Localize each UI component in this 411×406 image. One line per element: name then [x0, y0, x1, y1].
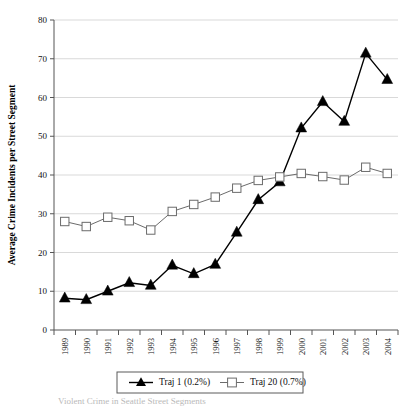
y-axis-tick-label: 60	[38, 93, 48, 103]
data-point-marker	[319, 172, 327, 180]
y-axis-tick-label: 50	[38, 131, 48, 141]
data-point-marker	[253, 194, 264, 204]
data-point-marker	[167, 259, 178, 269]
data-point-marker	[104, 213, 112, 221]
x-axis-tick-label: 1990	[82, 338, 92, 355]
x-axis-tick-label: 2004	[383, 337, 393, 355]
x-axis-tick-label: 1996	[211, 338, 221, 355]
y-axis-tick-label: 30	[38, 209, 48, 219]
data-point-marker	[383, 169, 391, 177]
x-axis-tick-label: 2003	[361, 338, 371, 355]
gridlines-group	[54, 20, 398, 291]
x-axis-tick-label: 1991	[103, 338, 113, 355]
data-point-marker	[168, 207, 176, 215]
y-axis-tick-label: 20	[38, 248, 48, 258]
data-point-marker	[254, 176, 262, 184]
crime-trajectory-line-chart: 01020304050607080 1989199019911992199319…	[0, 0, 411, 406]
x-axis-tick-label: 1995	[189, 338, 199, 355]
x-axis-tick-label: 1999	[275, 338, 285, 355]
chart-legend: Traj 1 (0.2%)Traj 20 (0.7%)	[117, 372, 306, 393]
x-axis-tick-label: 1994	[168, 337, 178, 355]
figure-caption: Violent Crime in Seattle Street Segments	[58, 396, 206, 406]
y-axis-tick-label: 0	[43, 325, 48, 335]
data-point-marker	[340, 176, 348, 184]
x-axis-tick-label: 2000	[297, 338, 307, 355]
y-axis-tick-label: 70	[38, 54, 48, 64]
y-axis-tick-label: 10	[38, 286, 48, 296]
data-point-marker	[124, 277, 135, 287]
data-point-marker	[190, 200, 198, 208]
x-axis-tick-label: 1992	[125, 338, 135, 355]
y-axis-group: 01020304050607080	[38, 15, 54, 335]
data-point-marker	[125, 217, 133, 225]
x-axis-tick-label: 1998	[254, 338, 264, 355]
data-point-marker	[59, 292, 70, 302]
data-point-marker	[61, 217, 69, 225]
legend-label: Traj 20 (0.7%)	[250, 377, 306, 388]
data-point-marker	[360, 47, 371, 57]
x-axis-group: 1989199019911992199319941995199619971998…	[54, 330, 398, 355]
y-axis-tick-label: 80	[38, 15, 48, 25]
data-point-marker	[82, 222, 90, 230]
chart-figure: 01020304050607080 1989199019911992199319…	[0, 0, 411, 406]
y-axis-tick-label: 40	[38, 170, 48, 180]
x-axis-tick-label: 1993	[146, 338, 156, 355]
data-point-marker	[211, 193, 219, 201]
data-point-marker	[233, 184, 241, 192]
series-line-1	[65, 53, 388, 299]
data-point-marker	[276, 173, 284, 181]
data-point-marker	[362, 163, 370, 171]
x-axis-tick-label: 1997	[232, 338, 242, 355]
data-point-marker	[147, 226, 155, 234]
series-line-2	[65, 167, 388, 230]
data-point-marker	[339, 115, 350, 125]
x-axis-tick-label: 2002	[340, 338, 350, 355]
y-axis-title: Average Crime Incidents per Street Segme…	[7, 84, 17, 266]
legend-marker-square	[228, 378, 237, 387]
x-axis-tick-label: 1989	[60, 338, 70, 355]
data-point-marker	[297, 169, 305, 177]
x-axis-tick-label: 2001	[318, 338, 328, 355]
legend-label: Traj 1 (0.2%)	[159, 377, 210, 388]
